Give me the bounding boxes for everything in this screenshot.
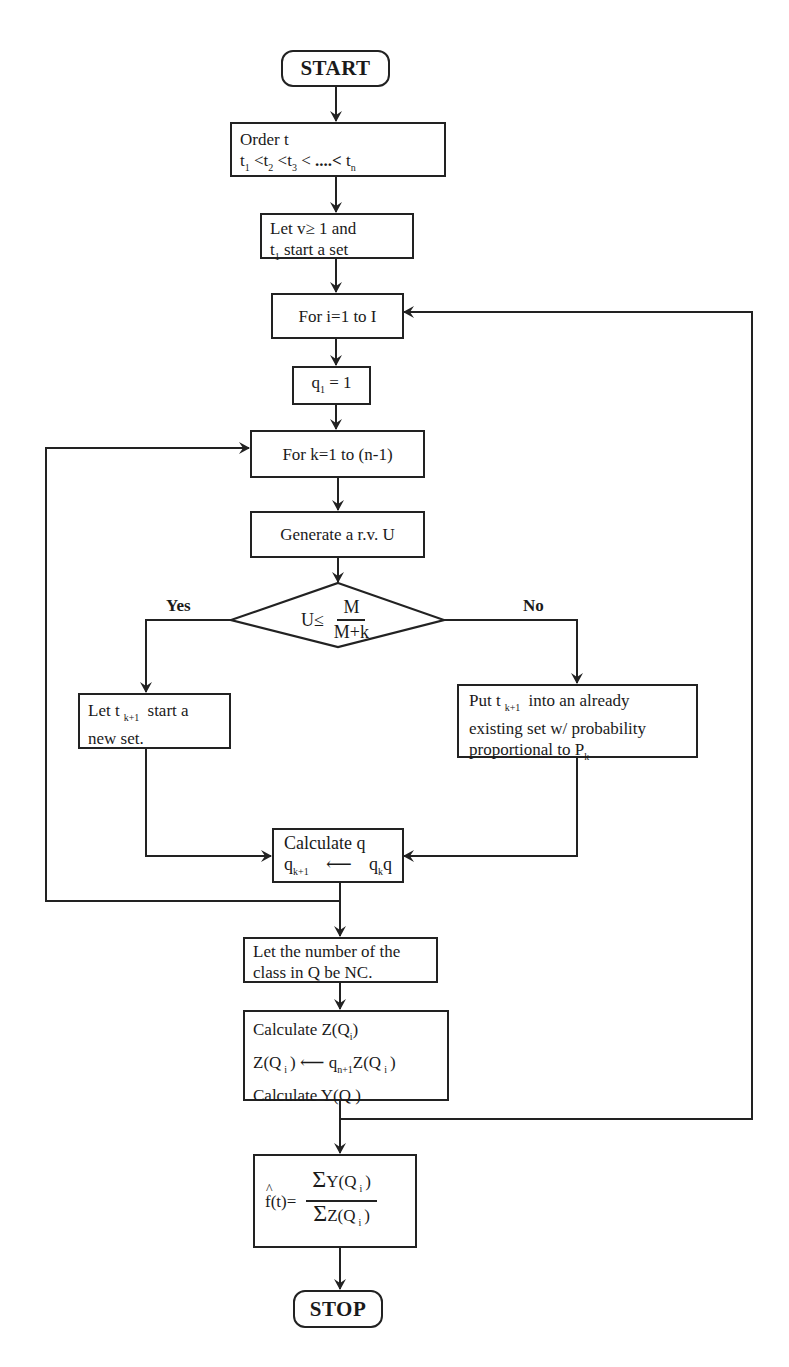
for-i-box: For i=1 to I bbox=[271, 293, 404, 339]
init-line2: t1 start a set bbox=[270, 239, 404, 267]
existing-set-box: Put tk+1 into an already existing set w/… bbox=[457, 684, 698, 758]
yes-label: Yes bbox=[166, 596, 191, 616]
estimator-fraction: ΣY(Qi) ΣZ(Qi) bbox=[306, 1169, 377, 1233]
new-set-box: Let tk+1 start a new set. bbox=[78, 693, 231, 749]
calculate-q-box: Calculate q qk+1 ⟵ qkq bbox=[272, 828, 404, 883]
for-k-label: For k=1 to (n-1) bbox=[282, 444, 392, 465]
order-sequence: t1 <t2 <t3 < ....< tn bbox=[240, 150, 436, 178]
init-line1: Let v≥ 1 and bbox=[270, 218, 404, 239]
q1-box: q1 = 1 bbox=[292, 366, 371, 405]
stop-label: STOP bbox=[310, 1297, 366, 1322]
generate-box: Generate a r.v. U bbox=[250, 511, 425, 558]
order-box: Order t t1 <t2 <t3 < ....< tn bbox=[230, 122, 446, 177]
order-line1: Order t bbox=[240, 129, 436, 150]
decision-condition: U≤ MM+k bbox=[268, 596, 408, 644]
q1-label: q1 = 1 bbox=[311, 372, 351, 400]
no-label: No bbox=[523, 596, 544, 616]
generate-label: Generate a r.v. U bbox=[280, 524, 395, 545]
estimator-box: f(t)= ΣY(Qi) ΣZ(Qi) bbox=[253, 1154, 417, 1248]
estimator-lhs: f(t)= bbox=[265, 1191, 296, 1212]
calculate-z-box: Calculate Z(Qi) Z(Qi) ⟵ qn+1Z(Qi) Calcul… bbox=[243, 1010, 449, 1101]
for-k-box: For k=1 to (n-1) bbox=[250, 430, 425, 478]
assign-arrow-icon: ⟵ bbox=[300, 1053, 324, 1072]
for-i-label: For i=1 to I bbox=[298, 306, 376, 327]
start-label: START bbox=[300, 56, 370, 81]
init-set-box: Let v≥ 1 and t1 start a set bbox=[260, 213, 414, 259]
class-count-box: Let the number of the class in Q be NC. bbox=[243, 937, 438, 983]
stop-terminal: STOP bbox=[293, 1290, 383, 1328]
start-terminal: START bbox=[281, 50, 390, 87]
assign-arrow-icon: ⟵ bbox=[326, 854, 352, 882]
